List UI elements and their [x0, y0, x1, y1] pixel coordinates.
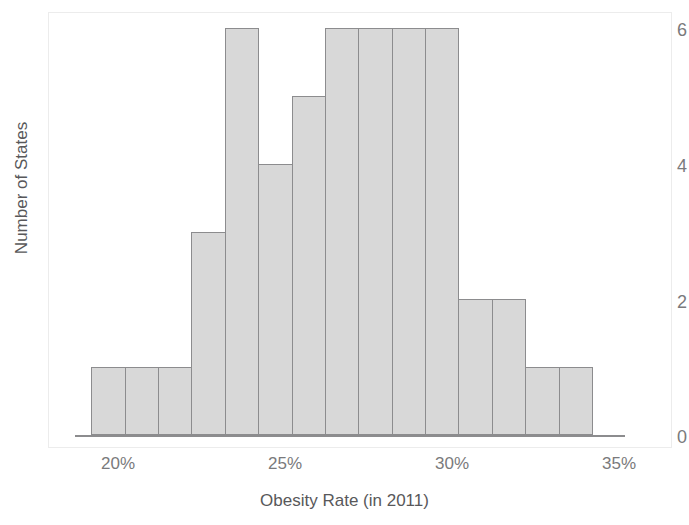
histogram-bar	[458, 299, 492, 435]
histogram-bar	[225, 28, 259, 435]
histogram-bar	[191, 232, 225, 436]
histogram-bar	[91, 367, 125, 435]
x-tick-label-25: 25%	[245, 455, 325, 472]
histogram-bar	[292, 96, 326, 435]
x-tick-label-30: 30%	[412, 455, 492, 472]
histogram-bar	[258, 164, 292, 435]
histogram-bar	[125, 367, 159, 435]
histogram-bar	[325, 28, 359, 435]
histogram-bar	[525, 367, 559, 435]
histogram-bar	[158, 367, 192, 435]
histogram-figure: Number of States 6 4 2 0 20% 25% 30% 35%…	[0, 0, 689, 525]
x-axis-baseline	[75, 435, 626, 437]
histogram-bar	[559, 367, 593, 435]
x-tick-label-20: 20%	[78, 455, 158, 472]
histogram-bar	[492, 299, 526, 435]
bars-layer	[0, 0, 689, 525]
x-tick-label-35: 35%	[579, 455, 659, 472]
histogram-bar	[392, 28, 426, 435]
histogram-bar	[425, 28, 459, 435]
histogram-bar	[358, 28, 392, 435]
x-axis-title: Obesity Rate (in 2011)	[0, 491, 689, 511]
